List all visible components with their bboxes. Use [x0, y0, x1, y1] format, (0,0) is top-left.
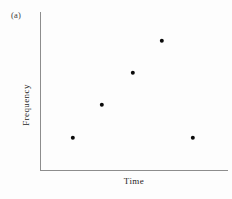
- x-axis-title: Time: [0, 177, 232, 186]
- data-point-marker: [191, 136, 195, 140]
- data-point-marker: [160, 39, 164, 43]
- panel-label: (a): [11, 11, 21, 20]
- data-point-marker: [100, 103, 104, 107]
- data-point-marker: [131, 71, 135, 75]
- data-point-marker: [71, 136, 75, 140]
- y-axis-title-text: Frequency: [22, 84, 31, 126]
- scatter-plot-figure: (a) Frequency Time: [0, 0, 232, 199]
- x-axis-line: [40, 170, 228, 171]
- y-axis-line: [40, 12, 41, 171]
